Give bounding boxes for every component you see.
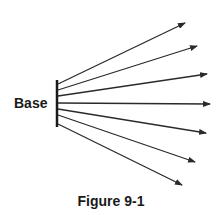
rays-diagram: Base Figure 9-1 [0,0,219,215]
arrow-6 [58,115,195,162]
arrow-7 [58,124,182,185]
arrow-3 [58,74,207,96]
arrow-2 [58,46,197,90]
arrow-1 [58,23,185,84]
figure-caption: Figure 9-1 [78,193,145,209]
arrow-4 [58,103,210,104]
arrow-5 [58,109,206,133]
base-label: Base [14,95,48,111]
arrow-group [58,23,210,185]
